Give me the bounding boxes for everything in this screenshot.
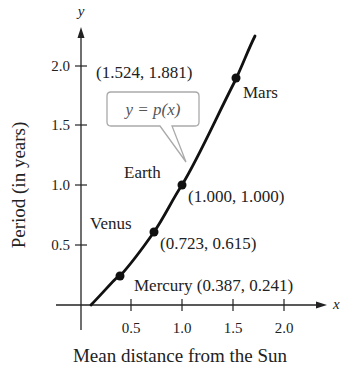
mercury-coord-label: (0.387, 0.241) — [197, 276, 293, 295]
x-tick-label: 1.5 — [224, 320, 243, 336]
y-tick-label: 2.0 — [51, 58, 70, 74]
x-axis-name: x — [332, 296, 340, 312]
x-axis-label: Mean distance from the Sun — [73, 345, 288, 366]
point-earth — [178, 181, 187, 190]
x-tick-label: 1.0 — [173, 320, 192, 336]
point-mars — [232, 74, 241, 83]
x-axis-arrow-icon — [316, 302, 327, 309]
point-venus — [150, 228, 159, 237]
mercury-name-label: Mercury — [134, 276, 193, 295]
callout-label: y = p(x) — [124, 100, 181, 119]
y-tick-label: 1.5 — [51, 117, 70, 133]
y-axis-arrow-icon — [78, 27, 85, 38]
venus-name-label: Venus — [90, 214, 132, 233]
chart: 0.5 1.0 1.5 2.0 0.5 1.0 1.5 2.0 y x Mean… — [0, 0, 355, 371]
y-tick-label: 0.5 — [51, 237, 70, 253]
mercury-label: Mercury (0.387, 0.241) — [134, 276, 293, 295]
venus-coord-label: (0.723, 0.615) — [160, 234, 256, 253]
mars-coord-label: (1.524, 1.881) — [96, 63, 192, 82]
point-mercury — [116, 272, 125, 281]
mars-name-label: Mars — [243, 83, 278, 102]
y-axis-name: y — [76, 3, 85, 19]
x-tick-label: 0.5 — [122, 320, 141, 336]
x-tick-label: 2.0 — [275, 320, 294, 336]
curve-callout: y = p(x) — [107, 92, 199, 162]
y-tick-label: 1.0 — [51, 177, 70, 193]
earth-name-label: Earth — [124, 163, 161, 182]
earth-coord-label: (1.000, 1.000) — [188, 187, 284, 206]
y-axis-label: Period (in years) — [8, 122, 30, 249]
